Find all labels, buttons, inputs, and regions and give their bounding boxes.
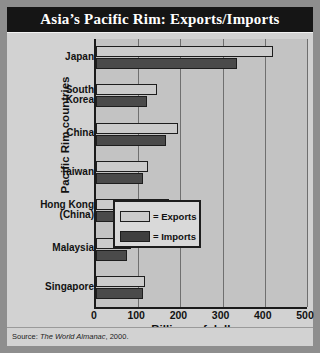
source-suffix: , 2000. — [106, 332, 129, 341]
source-prefix: Source: — [12, 332, 38, 341]
legend-swatch-imports — [120, 231, 150, 242]
bar-group — [96, 154, 307, 192]
legend-item-exports: = Exports — [120, 208, 194, 224]
bar-group — [96, 116, 307, 154]
gridline-500 — [307, 39, 308, 307]
category-label: Taiwan — [17, 167, 94, 178]
bars-layer — [96, 39, 307, 307]
bar-exports — [96, 123, 178, 134]
x-tick-label-500: 500 — [296, 309, 314, 321]
category-label: Malaysia — [17, 243, 94, 254]
bar-imports — [96, 288, 143, 299]
x-tick-label-100: 100 — [127, 309, 145, 321]
page-title: Asia’s Pacific Rim: Exports/Imports — [40, 11, 279, 28]
category-label-line: Taiwan — [17, 167, 94, 178]
source-note: Source: The World Almanac, 2000. — [12, 332, 128, 341]
source-publication: The World Almanac — [40, 332, 106, 341]
legend-label-exports: = Exports — [153, 211, 197, 222]
chart-legend: = Exports = Imports — [113, 200, 201, 248]
legend-label-imports: = Imports — [153, 231, 196, 242]
category-label: Singapore — [17, 282, 94, 293]
plot-area — [94, 39, 307, 309]
title-bar: Asia’s Pacific Rim: Exports/Imports — [7, 7, 313, 32]
chart-panel: Pacific Rim countries JapanSouthKoreaChi… — [7, 32, 313, 346]
bar-imports — [96, 58, 237, 69]
bar-exports — [96, 84, 157, 95]
bar-imports — [96, 135, 166, 146]
bar-exports — [96, 276, 145, 287]
bar-group — [96, 39, 307, 77]
category-label-line: Japan — [17, 52, 94, 63]
category-label-line: Singapore — [17, 282, 94, 293]
bar-exports — [96, 161, 148, 172]
bar-exports — [96, 46, 273, 57]
category-label-column: JapanSouthKoreaChinaTaiwanHong Kong(Chin… — [17, 39, 94, 307]
x-axis-ticks: 0100200300400500 — [94, 309, 309, 323]
category-label-line: Korea — [17, 95, 94, 106]
category-label: Japan — [17, 52, 94, 63]
x-tick-label-300: 300 — [212, 309, 230, 321]
x-tick-label-400: 400 — [254, 309, 272, 321]
category-label-line: (China) — [17, 210, 94, 221]
bar-imports — [96, 96, 147, 107]
bar-group — [96, 77, 307, 115]
source-bar: Source: The World Almanac, 2000. — [7, 327, 313, 346]
bar-imports — [96, 173, 143, 184]
category-label: China — [17, 128, 94, 139]
x-tick-label-200: 200 — [170, 309, 188, 321]
category-label: Hong Kong(China) — [17, 200, 94, 221]
infographic-figure: Asia’s Pacific Rim: Exports/Imports Paci… — [0, 0, 320, 353]
bar-imports — [96, 250, 127, 261]
category-label: SouthKorea — [17, 85, 94, 106]
legend-swatch-exports — [120, 211, 150, 222]
x-tick-label-0: 0 — [91, 309, 97, 321]
category-label-line: China — [17, 128, 94, 139]
category-label-line: Malaysia — [17, 243, 94, 254]
bar-group — [96, 269, 307, 307]
legend-item-imports: = Imports — [120, 228, 194, 244]
